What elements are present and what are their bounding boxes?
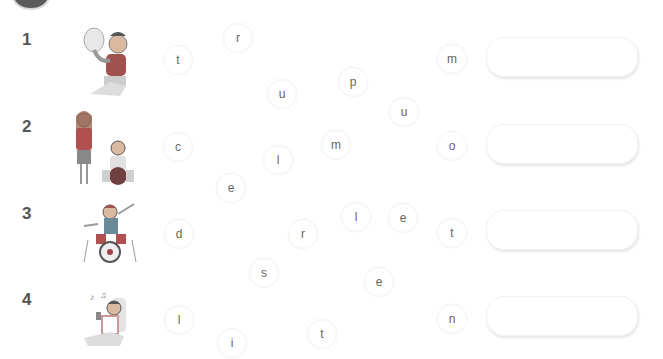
letter-bubble[interactable]: m xyxy=(437,44,467,74)
letter-bubble[interactable]: d xyxy=(164,219,194,249)
letter-bubble[interactable]: u xyxy=(389,97,419,127)
answer-input-2[interactable] xyxy=(486,124,638,164)
letter-bubble[interactable]: m xyxy=(321,130,351,160)
drummer-illustration xyxy=(80,200,140,265)
letter-bubble[interactable]: l xyxy=(164,305,194,335)
music-listener-illustration: ♪ ♫ xyxy=(80,290,130,350)
letter-bubble[interactable]: r xyxy=(223,23,253,53)
letter-bubble[interactable]: u xyxy=(267,79,297,109)
svg-text:♫: ♫ xyxy=(100,290,107,300)
letter-bubble[interactable]: s xyxy=(249,258,279,288)
letter-bubble[interactable]: c xyxy=(163,132,193,162)
answer-input-3[interactable] xyxy=(486,210,638,250)
letter-bubble[interactable]: t xyxy=(307,319,337,349)
section-badge xyxy=(12,0,50,10)
item-number: 2 xyxy=(22,117,31,137)
letter-bubble[interactable]: o xyxy=(437,131,467,161)
letter-bubble[interactable]: t xyxy=(163,45,193,75)
letter-bubble[interactable]: i xyxy=(217,328,247,358)
letter-bubble[interactable]: t xyxy=(437,218,467,248)
letter-bubble[interactable]: e xyxy=(388,203,418,233)
answer-input-1[interactable] xyxy=(486,37,638,77)
letter-bubble[interactable]: l xyxy=(263,145,293,175)
item-number: 3 xyxy=(22,204,31,224)
letter-bubble[interactable]: e xyxy=(216,173,246,203)
answer-input-4[interactable] xyxy=(486,296,638,336)
letter-bubble[interactable]: e xyxy=(364,267,394,297)
tuba-player-illustration xyxy=(80,24,135,99)
letter-bubble[interactable]: n xyxy=(437,304,467,334)
singer-and-cellist-illustration xyxy=(70,108,140,188)
letter-bubble[interactable]: r xyxy=(288,219,318,249)
letter-bubble[interactable]: p xyxy=(338,67,368,97)
svg-text:♪: ♪ xyxy=(90,292,95,302)
item-number: 4 xyxy=(22,290,31,310)
item-number: 1 xyxy=(22,30,31,50)
letter-bubble[interactable]: l xyxy=(341,202,371,232)
